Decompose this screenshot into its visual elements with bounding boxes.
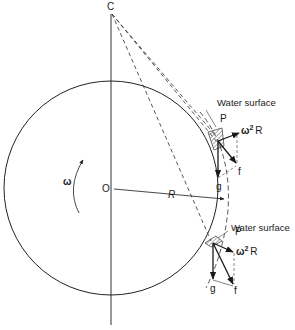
water-surface-upper-label: Water surface <box>217 97 276 108</box>
dashed-line-c-to-lower-p <box>112 14 211 241</box>
rotating-body-diagram: C O R ω Water surface P ω2R g f Water su… <box>0 0 295 330</box>
omega-label: ω <box>63 176 72 187</box>
point-p-upper-label: P <box>220 113 227 124</box>
centrifugal-lower-label: ω2R <box>236 245 258 257</box>
gravity-lower-label: g <box>210 283 216 294</box>
centrifugal-upper-label: ω2R <box>241 124 263 136</box>
point-p-lower-label: P <box>235 226 242 237</box>
resultant-upper-label: f <box>238 166 241 177</box>
rotation-arrow-icon <box>73 160 83 213</box>
resultant-lower-label: f <box>234 285 237 296</box>
point-c-label: C <box>107 1 114 12</box>
point-o-label: O <box>102 183 110 194</box>
lower-water-element <box>205 231 234 286</box>
dashed-line-c-to-upper-p-2 <box>112 14 222 148</box>
radius-label: R <box>168 189 175 200</box>
gravity-upper-label: g <box>216 181 222 192</box>
